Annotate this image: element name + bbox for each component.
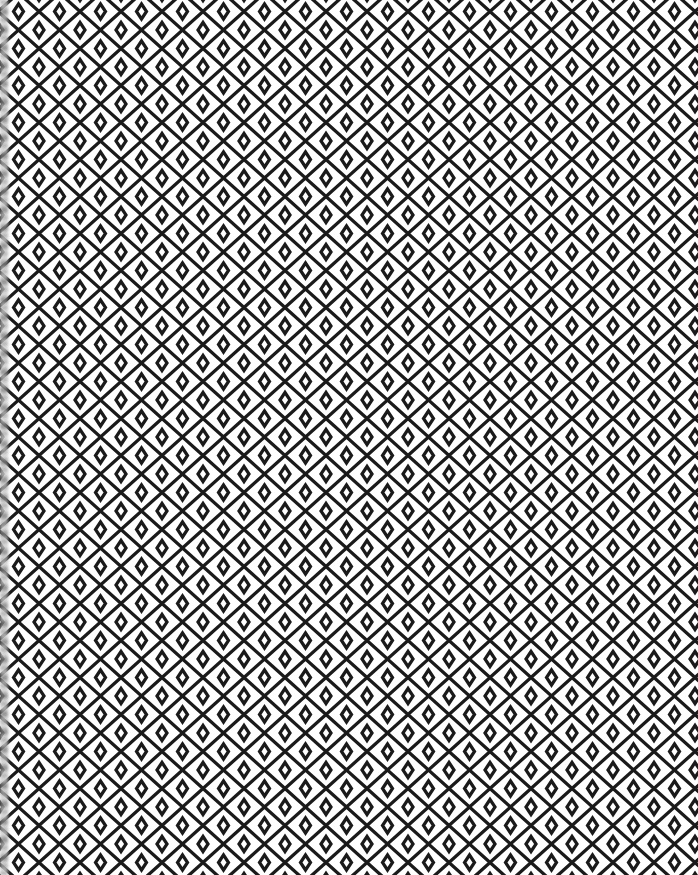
- geometric-lattice-pattern: [0, 0, 698, 875]
- left-edge-blur: [0, 0, 8, 875]
